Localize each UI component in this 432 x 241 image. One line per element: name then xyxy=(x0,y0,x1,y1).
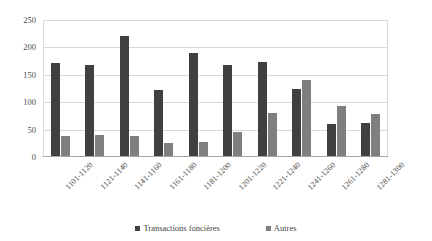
x-axis-label-cell: 1201-1220 xyxy=(216,158,251,204)
x-axis-label-cell: 1181-1200 xyxy=(181,158,216,204)
bar-transactions-foncieres[interactable] xyxy=(223,65,232,157)
x-axis-label-cell: 1261-1280 xyxy=(319,158,354,204)
bar-transactions-foncieres[interactable] xyxy=(189,53,198,157)
bar-transactions-foncieres[interactable] xyxy=(361,123,370,157)
chart-legend: Transactions foncièresAutres xyxy=(0,224,432,233)
x-axis-line xyxy=(43,156,388,157)
bar-transactions-foncieres[interactable] xyxy=(154,90,163,157)
legend-swatch-icon xyxy=(135,226,140,231)
bar-autres[interactable] xyxy=(95,135,104,157)
bar-group xyxy=(181,20,216,157)
bar-group xyxy=(319,20,354,157)
x-axis-tick-label: 1281-1300 xyxy=(375,161,406,192)
x-axis-label-cell: 1161-1180 xyxy=(147,158,182,204)
x-axis-label-cell: 1121-1140 xyxy=(78,158,113,204)
bar-transactions-foncieres[interactable] xyxy=(120,36,129,157)
legend-label: Transactions foncières xyxy=(143,224,219,233)
legend-item[interactable]: Transactions foncières xyxy=(135,224,219,233)
bar-autres[interactable] xyxy=(61,136,70,157)
bar-group xyxy=(354,20,389,157)
bar-group xyxy=(216,20,251,157)
bar-transactions-foncieres[interactable] xyxy=(327,124,336,157)
bar-group xyxy=(147,20,182,157)
bar-groups xyxy=(43,20,388,157)
bar-transactions-foncieres[interactable] xyxy=(258,62,267,157)
bar-transactions-foncieres[interactable] xyxy=(51,63,60,157)
y-axis: 050100150200250 xyxy=(0,20,39,157)
bar-autres[interactable] xyxy=(130,136,139,157)
bar-group xyxy=(112,20,147,157)
bar-autres[interactable] xyxy=(302,80,311,157)
y-axis-tick-label: 100 xyxy=(23,98,36,107)
x-axis-label-cell: 1241-1260 xyxy=(285,158,320,204)
bar-autres[interactable] xyxy=(233,132,242,157)
plot-area xyxy=(43,20,388,157)
bar-group xyxy=(43,20,78,157)
bar-autres[interactable] xyxy=(268,113,277,157)
bar-group xyxy=(78,20,113,157)
bar-autres[interactable] xyxy=(337,106,346,157)
y-axis-tick-label: 0 xyxy=(32,153,36,162)
bar-group xyxy=(285,20,320,157)
x-axis-label-cell: 1281-1300 xyxy=(354,158,389,204)
bar-chart: 050100150200250 1101-11201121-11401141-1… xyxy=(0,0,432,241)
x-axis-label-cell: 1141-1160 xyxy=(112,158,147,204)
x-axis-labels: 1101-11201121-11401141-11601161-11801181… xyxy=(43,158,388,204)
x-axis-label-cell: 1221-1240 xyxy=(250,158,285,204)
bar-autres[interactable] xyxy=(164,143,173,157)
y-axis-tick-label: 250 xyxy=(23,16,36,25)
bar-transactions-foncieres[interactable] xyxy=(292,89,301,158)
legend-swatch-icon xyxy=(266,226,271,231)
bar-autres[interactable] xyxy=(199,142,208,157)
y-axis-tick-label: 150 xyxy=(23,71,36,80)
y-axis-tick-label: 50 xyxy=(28,125,37,134)
bar-transactions-foncieres[interactable] xyxy=(85,65,94,157)
y-axis-tick-label: 200 xyxy=(23,43,36,52)
bar-group xyxy=(250,20,285,157)
legend-item[interactable]: Autres xyxy=(266,224,297,233)
legend-label: Autres xyxy=(274,224,297,233)
bar-autres[interactable] xyxy=(371,114,380,157)
x-axis-label-cell: 1101-1120 xyxy=(43,158,78,204)
